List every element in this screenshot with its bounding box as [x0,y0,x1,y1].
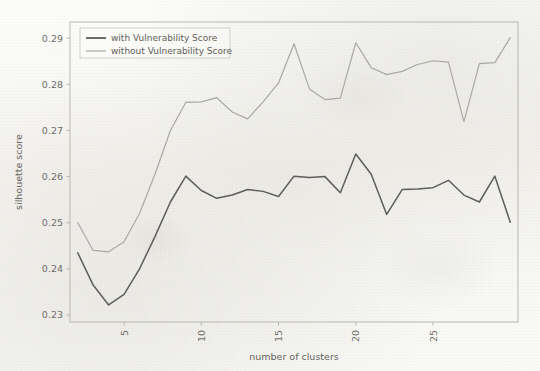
legend-label-with: with Vulnerability Score [111,33,218,43]
x-tick-label: 25 [428,330,439,342]
y-tick-label: 0.23 [42,309,63,320]
y-tick-label: 0.27 [42,125,63,136]
axes-frame [70,22,518,322]
x-axis-ticks: 510152025 [119,322,439,342]
y-tick-label: 0.25 [42,217,63,228]
x-axis-label: number of clusters [249,351,339,362]
y-axis-ticks: 0.230.240.250.260.270.280.29 [42,33,70,321]
chart-legend: with Vulnerability Scorewithout Vulnerab… [80,28,233,58]
plot-area [70,22,518,322]
legend-label-without: without Vulnerability Score [111,46,233,56]
y-tick-label: 0.26 [42,171,63,182]
silhouette-score-line-chart: 0.230.240.250.260.270.280.29 510152025 w… [0,0,540,371]
x-tick-label: 10 [196,330,207,342]
y-tick-label: 0.29 [42,33,63,44]
series-line-without-vulnerability-score [78,38,511,252]
y-axis-label: silhouette score [13,134,24,210]
x-tick-label: 15 [273,330,284,342]
x-tick-label: 20 [350,330,361,342]
y-tick-label: 0.24 [42,263,63,274]
y-tick-label: 0.28 [42,79,63,90]
x-tick-label: 5 [119,330,130,336]
series-line-with-vulnerability-score [78,154,511,305]
